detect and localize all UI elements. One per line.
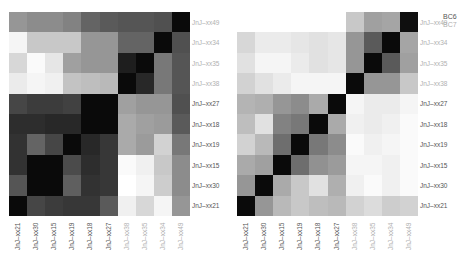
heatmap-cell: [346, 73, 364, 93]
heatmap-cell: [237, 175, 255, 195]
heatmap-cell: [154, 134, 172, 154]
row-label: JnJ–xx27: [420, 94, 447, 114]
row-label: JnJ–xx35: [420, 53, 447, 73]
heatmap-cell: [81, 196, 99, 216]
heatmap-cell: [81, 73, 99, 93]
row-label: JnJ–xx38: [420, 73, 447, 93]
col-label: JnJ–xx27: [328, 218, 346, 252]
col-label-text: JnJ–xx19: [296, 223, 303, 250]
heatmap-cell: [291, 175, 309, 195]
col-labels-right: JnJ–xx21JnJ–xx30JnJ–xx15JnJ–xx19JnJ–xx18…: [237, 218, 418, 252]
row-labels-right: JnJ–xx49JnJ–xx34JnJ–xx35JnJ–xx38JnJ–xx27…: [420, 12, 447, 216]
heatmap-cell: [328, 196, 346, 216]
heatmap-cell: [172, 12, 190, 32]
heatmap-cell: [100, 114, 118, 134]
heatmap-cell: [172, 32, 190, 52]
heatmap-cell: [400, 155, 418, 175]
heatmap-cell: [309, 73, 327, 93]
col-label: JnJ–xx15: [45, 218, 63, 252]
col-label: JnJ–xx30: [27, 218, 45, 252]
heatmap-cell: [255, 73, 273, 93]
heatmap-cell: [172, 155, 190, 175]
heatmap-cell: [9, 73, 27, 93]
heatmap-cell: [27, 53, 45, 73]
heatmap-cell: [63, 73, 81, 93]
row-label: JnJ–xx38: [192, 73, 219, 93]
heatmap-cell: [118, 12, 136, 32]
heatmap-cell: [45, 12, 63, 32]
heatmap-cell: [309, 196, 327, 216]
col-label-text: JnJ–xx38: [123, 223, 130, 250]
heatmap-cell: [63, 12, 81, 32]
heatmap-cell: [382, 73, 400, 93]
col-label-text: JnJ–xx27: [105, 223, 112, 250]
heatmap-cell: [118, 73, 136, 93]
heatmap-cell: [346, 175, 364, 195]
heatmap-cell: [255, 53, 273, 73]
heatmap-cell: [45, 53, 63, 73]
heatmap-cell: [309, 53, 327, 73]
heatmap-cell: [154, 114, 172, 134]
heatmap-cell: [100, 155, 118, 175]
heatmap-cell: [309, 134, 327, 154]
heatmap-cell: [172, 134, 190, 154]
col-label: JnJ–xx21: [9, 218, 27, 252]
heatmap-cell: [81, 155, 99, 175]
heatmap-cell: [27, 114, 45, 134]
heatmap-cell: [45, 73, 63, 93]
heatmap-cell: [382, 53, 400, 73]
col-label-text: JnJ–xx38: [351, 223, 358, 250]
heatmap-cell: [63, 175, 81, 195]
heatmap-cell: [328, 53, 346, 73]
heatmap-cell: [291, 32, 309, 52]
heatmap-cell: [45, 155, 63, 175]
heatmap-cell: [364, 114, 382, 134]
heatmap-cell: [154, 94, 172, 114]
heatmap-cell: [63, 134, 81, 154]
heatmap-cell: [400, 32, 418, 52]
row-label: JnJ–xx49: [192, 12, 219, 32]
heatmap-cell: [237, 134, 255, 154]
heatmap-cell: [328, 94, 346, 114]
heatmap-cell: [118, 94, 136, 114]
heatmap-cell: [364, 53, 382, 73]
heatmap-cell: [27, 155, 45, 175]
heatmap-cell: [45, 32, 63, 52]
heatmap-cell: [346, 155, 364, 175]
heatmap-cell: [9, 53, 27, 73]
heatmap-cell: [45, 196, 63, 216]
col-label: JnJ–xx19: [291, 218, 309, 252]
heatmap-cell: [81, 114, 99, 134]
heatmap-cell: [100, 53, 118, 73]
heatmap-cell: [346, 53, 364, 73]
heatmap-cell: [118, 32, 136, 52]
heatmap-cell: [100, 12, 118, 32]
heatmap-cell: [382, 94, 400, 114]
heatmap-cell: [136, 175, 154, 195]
heatmap-cell: [9, 175, 27, 195]
heatmap-cell: [255, 32, 273, 52]
heatmap-cell: [309, 114, 327, 134]
heatmap-cell: [291, 134, 309, 154]
heatmap-cell: [9, 114, 27, 134]
heatmap-cell: [9, 12, 27, 32]
row-label: JnJ–xx30: [192, 175, 219, 195]
heatmap-cell: [237, 196, 255, 216]
heatmap-cell: [136, 114, 154, 134]
heatmap-cell: [364, 12, 382, 32]
heatmap-cell: [172, 73, 190, 93]
heatmap-cell: [118, 175, 136, 195]
heatmap-cell: [118, 53, 136, 73]
heatmap-cell: [291, 73, 309, 93]
heatmap-cell: [273, 32, 291, 52]
heatmap-cell: [27, 32, 45, 52]
row-label: JnJ–xx30: [420, 175, 447, 195]
col-label-text: JnJ–xx21: [242, 223, 249, 250]
row-label: JnJ–xx34: [420, 32, 447, 52]
heatmap-cell: [237, 32, 255, 52]
heatmap-cell: [382, 134, 400, 154]
heatmap-cell: [255, 114, 273, 134]
col-label: JnJ–xx34: [382, 218, 400, 252]
heatmap-cell: [291, 196, 309, 216]
heatmap-cell: [237, 114, 255, 134]
